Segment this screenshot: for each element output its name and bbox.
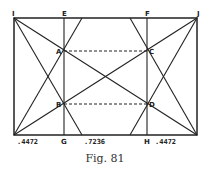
label-j: J — [196, 10, 200, 18]
label-c: C — [149, 48, 154, 56]
diagram-lines — [14, 18, 197, 135]
label-f: F — [145, 10, 150, 18]
label-i: I — [12, 10, 15, 18]
measurement-middle: .7236 — [84, 138, 105, 146]
label-d: D — [149, 101, 155, 109]
figure-caption: Fig. 81 — [85, 152, 124, 165]
label-b: B — [56, 101, 61, 109]
measurement-right: .4472 — [155, 138, 176, 146]
label-g: G — [61, 138, 67, 146]
label-e: E — [62, 10, 67, 18]
label-h: H — [144, 138, 150, 146]
figure-81-diagram: I E F J A C B D G H .4472 .7236 .4472 Fi… — [0, 0, 211, 174]
measurement-left: .4472 — [17, 138, 38, 146]
label-a: A — [56, 48, 62, 56]
